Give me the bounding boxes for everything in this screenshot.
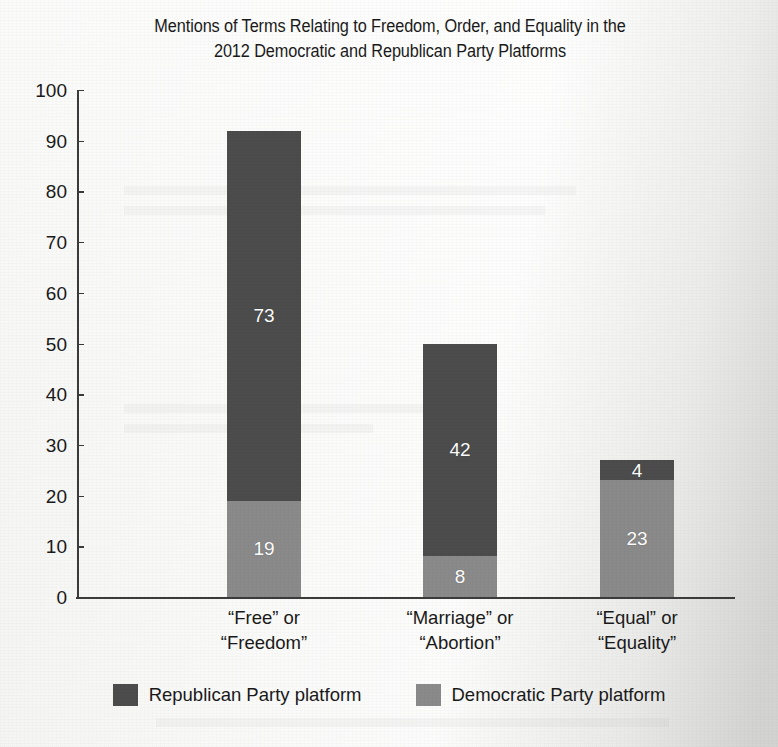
chart-legend: Republican Party platformDemocratic Part… [0, 684, 778, 706]
chart-title-line-1: Mentions of Terms Relating to Freedom, O… [74, 14, 706, 39]
y-axis-tick-label: 90 [46, 131, 67, 150]
bar-value-label: 8 [455, 567, 466, 586]
y-axis-tick-mark [77, 597, 84, 598]
bar-value-label: 19 [253, 539, 274, 558]
y-axis-tick-label: 70 [46, 233, 67, 252]
x-axis-category-label: “Free” or “Freedom” [154, 605, 374, 655]
y-axis-tick-label: 100 [35, 81, 67, 100]
legend-item[interactable]: Republican Party platform [113, 684, 362, 706]
bar-segment[interactable]: 4 [600, 460, 674, 480]
y-axis-tick-mark [77, 496, 84, 497]
bar-value-label: 42 [449, 440, 470, 459]
y-axis-tick-label: 20 [46, 486, 67, 505]
chart-title: Mentions of Terms Relating to Freedom, O… [74, 14, 706, 64]
chart-figure: Mentions of Terms Relating to Freedom, O… [0, 0, 778, 747]
legend-color-swatch [113, 684, 138, 706]
stacked-bar[interactable]: 842 [423, 344, 497, 598]
y-axis-tick-mark [77, 445, 84, 446]
legend-item[interactable]: Democratic Party platform [416, 684, 666, 706]
y-axis-tick-mark [77, 191, 84, 192]
bar-value-label: 23 [626, 529, 647, 548]
bar-value-label: 73 [253, 306, 274, 325]
y-axis-tick-mark [77, 394, 84, 395]
bar-segment[interactable]: 42 [423, 344, 497, 557]
legend-color-swatch [416, 684, 441, 706]
legend-label: Republican Party platform [149, 685, 362, 705]
x-axis-line [76, 597, 735, 599]
chart-title-line-2: 2012 Democratic and Republican Party Pla… [74, 39, 706, 64]
y-axis-tick-label: 30 [46, 435, 67, 454]
legend-label: Democratic Party platform [452, 685, 666, 705]
y-axis-tick-label: 0 [56, 588, 67, 607]
stacked-bar[interactable]: 1973 [227, 131, 301, 597]
y-axis-tick-mark [77, 546, 84, 547]
bar-segment[interactable]: 19 [227, 501, 301, 597]
plot-area: 0102030405060708090100 1973842234 “Free”… [77, 90, 735, 597]
y-axis-tick-label: 80 [46, 182, 67, 201]
y-axis-tick-label: 40 [46, 385, 67, 404]
y-axis-tick-mark [77, 90, 84, 91]
bar-value-label: 4 [632, 461, 643, 480]
y-axis-tick-mark [77, 293, 84, 294]
y-axis-tick-label: 50 [46, 334, 67, 353]
y-axis-tick-label: 10 [46, 537, 67, 556]
x-axis-category-label: “Equal” or “Equality” [527, 605, 747, 655]
y-axis-tick-mark [77, 141, 84, 142]
bar-segment[interactable]: 8 [423, 556, 497, 597]
y-axis-tick-mark [77, 242, 84, 243]
stacked-bar[interactable]: 234 [600, 460, 674, 597]
bar-segment[interactable]: 73 [227, 131, 301, 501]
y-axis-tick-label: 60 [46, 283, 67, 302]
y-axis-tick-mark [77, 344, 84, 345]
bar-segment[interactable]: 23 [600, 480, 674, 597]
